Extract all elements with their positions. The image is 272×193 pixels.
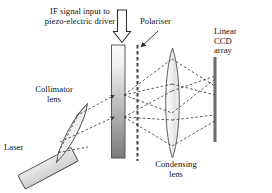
figure-canvas: IF signal input to piezo-electric driver… [0, 0, 272, 193]
condensing-lens-label: Condensing lens [134, 160, 218, 179]
aotf-crystal [112, 45, 126, 158]
collimator-lens-label: Collimator lens [18, 85, 90, 104]
condensing-lens [166, 48, 180, 158]
polariser-leader-arrow [141, 31, 158, 47]
laser-source [18, 147, 78, 189]
polariser-label: Polariser [140, 17, 200, 27]
linear-ccd-array-label: Linear CCD array [214, 27, 268, 56]
laser-label: Laser [4, 143, 40, 153]
if-signal-label: IF signal input to piezo-electric driver [24, 7, 136, 26]
